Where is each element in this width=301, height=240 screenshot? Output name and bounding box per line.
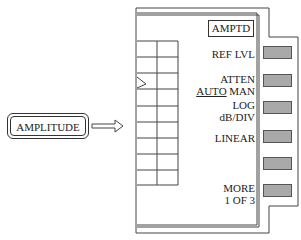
- softkey-1[interactable]: [263, 46, 292, 59]
- softkey-2[interactable]: [263, 74, 292, 87]
- softkey-label-more: MORE 1 OF 3: [223, 182, 255, 206]
- display-grid: [137, 41, 178, 185]
- softkey-6[interactable]: [263, 184, 292, 197]
- menu-title: AMPTD: [208, 20, 254, 37]
- softkey-label-linear: LINEAR: [215, 132, 255, 144]
- amplitude-key[interactable]: AMPLITUDE: [7, 113, 89, 139]
- hollow-right-arrow-icon: [92, 120, 123, 132]
- softkey-label-atten: ATTEN AUTO MAN: [196, 73, 255, 97]
- softkey-5[interactable]: [263, 157, 292, 170]
- softkey-4[interactable]: [263, 130, 292, 143]
- amplitude-key-label: AMPLITUDE: [10, 116, 86, 136]
- softkey-label-log: LOG dB/DIV: [220, 99, 255, 123]
- softkey-3[interactable]: [263, 101, 292, 114]
- softkey-label-ref-lvl: REF LVL: [212, 48, 255, 60]
